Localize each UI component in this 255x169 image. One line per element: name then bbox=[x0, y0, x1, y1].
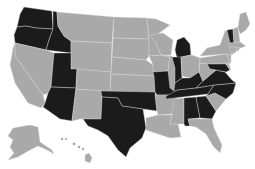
state-co: Colorado bbox=[76, 69, 111, 92]
state-sd: South Dakota bbox=[112, 38, 149, 60]
state-wy: Wyoming bbox=[71, 41, 112, 72]
us-map-canvas: WashingtonOregonIdahoMontanaWyomingNevad… bbox=[0, 0, 255, 169]
state-nm: New Mexico bbox=[72, 89, 102, 121]
state-ne: Nebraska bbox=[111, 57, 154, 76]
us-map: WashingtonOregonIdahoMontanaWyomingNevad… bbox=[0, 0, 255, 169]
state-wa: Washington bbox=[17, 7, 53, 29]
hawaii-island bbox=[73, 143, 76, 146]
state-fl: Florida bbox=[188, 119, 222, 153]
state-me: Maine bbox=[238, 12, 250, 34]
state-hi: Hawaii bbox=[85, 153, 92, 163]
hawaii-islands-layer bbox=[61, 138, 84, 150]
states-layer: WashingtonOregonIdahoMontanaWyomingNevad… bbox=[8, 7, 250, 163]
state-ak: Alaska bbox=[8, 125, 54, 160]
hawaii-island bbox=[61, 138, 63, 140]
hawaii-island bbox=[78, 146, 81, 149]
hawaii-island bbox=[65, 138, 67, 140]
state-ct: Connecticut bbox=[230, 47, 237, 53]
state-mi: Michigan bbox=[175, 37, 191, 58]
state-ks: Kansas bbox=[110, 74, 155, 92]
state-nd: North Dakota bbox=[113, 17, 149, 39]
hawaii-island bbox=[82, 148, 84, 150]
